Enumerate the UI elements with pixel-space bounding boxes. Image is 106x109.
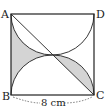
vertex-label-b: B xyxy=(2,90,10,103)
vertex-label-c: C xyxy=(96,89,104,102)
vertex-label-a: A xyxy=(0,8,10,21)
dimension-label: 8 cm xyxy=(41,97,66,108)
square-diagram: A D B C 8 cm xyxy=(0,0,106,109)
vertex-label-d: D xyxy=(96,8,105,21)
